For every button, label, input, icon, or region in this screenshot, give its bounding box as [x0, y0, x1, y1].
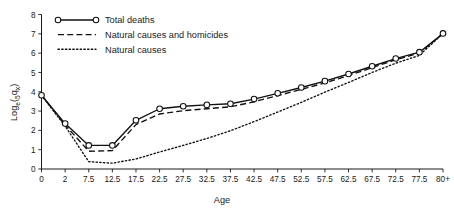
x-tick-label: 42.5 — [246, 175, 262, 184]
data-series-layer — [42, 33, 444, 163]
chart-legend: Total deathsNatural causes and homicides… — [55, 15, 228, 54]
legend-marker — [55, 17, 61, 23]
y-tick-label: 5 — [31, 69, 36, 78]
data-point-marker — [393, 56, 399, 62]
x-tick-label: 52.5 — [293, 175, 309, 184]
x-tick-label: 47.5 — [270, 175, 286, 184]
legend-label: Natural causes — [105, 45, 167, 55]
x-tick-label: 22.5 — [152, 175, 168, 184]
svg-text:Loge(5qx): Loge(5qx) — [9, 84, 21, 121]
y-tick-label: 0 — [31, 165, 36, 174]
data-point-marker — [417, 49, 423, 55]
x-tick-label: 0 — [39, 175, 44, 184]
legend-marker — [93, 17, 99, 23]
data-point-marker — [62, 121, 68, 127]
y-axis-title: Loge(5qx) — [9, 84, 21, 121]
data-point-marker — [440, 31, 446, 37]
data-point-marker — [204, 102, 210, 108]
x-tick-label: 12.5 — [104, 175, 120, 184]
line-chart: Loge(5qx) 012345678 027.512.517.522.527.… — [0, 0, 454, 211]
y-tick-label: 6 — [31, 49, 36, 58]
y-tick-label: 7 — [31, 30, 36, 39]
data-point-marker — [298, 85, 304, 91]
data-point-marker — [228, 101, 234, 107]
y-tick-label: 3 — [31, 107, 36, 116]
y-axis-title-main: Log — [9, 106, 19, 121]
data-point-marker — [369, 63, 375, 69]
y-tick-label: 4 — [31, 88, 36, 97]
legend-label: Total deaths — [105, 15, 155, 25]
x-tick-label: 77.5 — [411, 175, 427, 184]
data-point-marker — [346, 71, 352, 77]
x-tick-label: 17.5 — [128, 175, 144, 184]
data-point-marker — [251, 96, 257, 102]
legend-item: Natural causes — [58, 45, 167, 55]
y-tick-label: 8 — [31, 11, 36, 20]
x-tick-label: 72.5 — [388, 175, 404, 184]
x-tick-label: 32.5 — [199, 175, 215, 184]
legend-label: Natural causes and homicides — [105, 30, 228, 40]
data-point-marker — [39, 92, 45, 98]
x-tick-label: 57.5 — [317, 175, 333, 184]
data-point-marker — [110, 143, 116, 149]
x-tick-label: 80+ — [436, 175, 450, 184]
data-point-marker — [86, 143, 92, 149]
data-point-marker — [322, 78, 328, 84]
legend-item: Total deaths — [55, 15, 155, 25]
data-point-marker — [275, 91, 281, 97]
x-tick-label: 37.5 — [222, 175, 238, 184]
y-tick-label: 2 — [31, 126, 36, 135]
chart-figure: Loge(5qx) 012345678 027.512.517.522.527.… — [0, 0, 454, 211]
x-tick-label: 27.5 — [175, 175, 191, 184]
series-line — [42, 33, 444, 163]
y-tick-label: 1 — [31, 146, 36, 155]
x-tick-label: 7.5 — [83, 175, 95, 184]
data-point-marker — [133, 118, 139, 124]
x-axis-title: Age — [214, 195, 230, 205]
x-tick-label: 67.5 — [364, 175, 380, 184]
series-line — [42, 33, 444, 145]
data-point-marker — [180, 103, 186, 109]
data-point-marker — [157, 106, 163, 112]
series-line — [42, 33, 444, 151]
legend-item: Natural causes and homicides — [58, 30, 228, 40]
x-axis-ticks: 027.512.517.522.527.532.537.542.547.552.… — [39, 169, 450, 184]
x-tick-label: 2 — [63, 175, 68, 184]
y-axis-title-close-paren: ) — [9, 84, 19, 87]
x-tick-label: 62.5 — [341, 175, 357, 184]
data-markers-layer — [39, 31, 446, 149]
